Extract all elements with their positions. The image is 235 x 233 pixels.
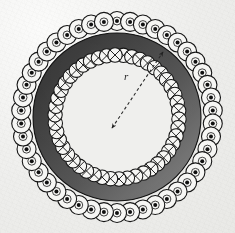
flange-diagram: r xyxy=(0,0,235,233)
inner-bolt xyxy=(108,48,122,62)
figure-canvas: r xyxy=(0,0,235,233)
annular-band-group xyxy=(0,0,235,233)
radius-label: r xyxy=(124,70,129,82)
outer-bolt xyxy=(94,12,113,31)
